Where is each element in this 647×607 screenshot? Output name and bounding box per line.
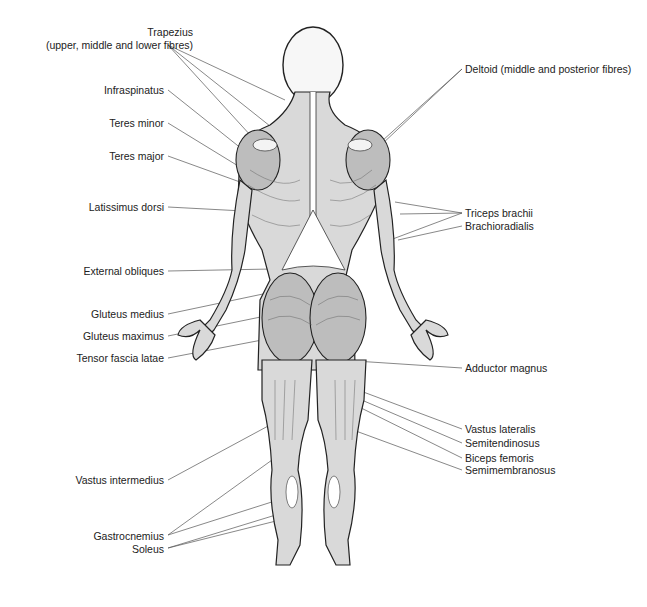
label-brachioradialis: Brachioradialis — [465, 220, 534, 232]
label-vastus-intermedius: Vastus intermedius — [75, 474, 164, 486]
label-triceps-brachii: Triceps brachii — [465, 207, 533, 219]
label-teres-minor: Teres minor — [109, 117, 164, 129]
label-soleus: Soleus — [132, 543, 164, 555]
label-gluteus-maximus: Gluteus maximus — [83, 330, 164, 342]
body — [178, 27, 448, 565]
label-external-obliques: External obliques — [83, 265, 164, 277]
label-adductor-magnus: Adductor magnus — [465, 362, 547, 374]
label-latissimus-dorsi: Latissimus dorsi — [89, 201, 164, 213]
label-deltoid: Deltoid (middle and posterior fibres) — [465, 63, 631, 75]
label-vastus-lateralis: Vastus lateralis — [465, 423, 535, 435]
label-teres-major: Teres major — [109, 150, 164, 162]
label-trapezius-sub: (upper, middle and lower fibres) — [46, 39, 193, 51]
muscle-figure — [0, 0, 647, 607]
label-semimembranosus: Semimembranosus — [465, 464, 555, 476]
label-biceps-femoris: Biceps femoris — [465, 452, 534, 464]
label-tensor-fascia-latae: Tensor fascia latae — [76, 352, 164, 364]
label-semitendinosus: Semitendinosus — [465, 437, 540, 449]
label-infraspinatus: Infraspinatus — [104, 84, 164, 96]
label-gastrocnemius: Gastrocnemius — [93, 530, 164, 542]
label-gluteus-medius: Gluteus medius — [91, 308, 164, 320]
label-trapezius: Trapezius — [147, 26, 193, 38]
